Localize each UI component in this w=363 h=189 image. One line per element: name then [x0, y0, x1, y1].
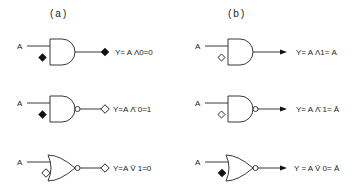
equation: Y= A Λ0=0: [115, 48, 153, 57]
input-label: A: [17, 42, 23, 51]
equation: Y= A Λ1= A: [296, 48, 338, 57]
inversion-bubble-icon: [75, 107, 80, 112]
open-diamond-icon: [218, 111, 225, 118]
arrow-icon: [280, 166, 287, 171]
gate-a2-nand: A Y=A Λ̄ 0=1: [17, 96, 152, 122]
nand-gate-icon: [50, 96, 75, 122]
gate-b3-nor: A Y = A V̄ 0= Ā: [195, 155, 340, 181]
input-label: A: [195, 99, 201, 108]
open-diamond-icon: [101, 105, 109, 113]
gate-b1-and: A Y= A Λ1= A: [195, 39, 338, 65]
equation: Y= A Λ̄ 1= Ā: [296, 105, 340, 114]
equation: Y=A Λ̄ 0=1: [113, 105, 152, 114]
open-diamond-icon: [218, 54, 225, 61]
nor-gate-icon: [226, 155, 253, 181]
arrow-icon: [280, 107, 287, 112]
equation: Y = A V̄ 0= Ā: [294, 164, 340, 173]
filled-diamond-icon: [38, 110, 46, 118]
and-gate-icon: [50, 39, 75, 65]
filled-diamond-icon: [38, 53, 46, 61]
input-label: A: [17, 158, 23, 167]
nor-gate-icon: [48, 155, 75, 181]
input-label: A: [17, 99, 23, 108]
open-diamond-icon: [42, 169, 50, 177]
gate-a3-nor: A Y=A V̄ 1=0: [17, 155, 152, 181]
logic-gate-diagram: (a) (b) A Y= A Λ0=0 A Y=A Λ̄ 0=1 A Y=A V…: [0, 0, 363, 189]
input-label: A: [195, 158, 201, 167]
filled-diamond-icon: [101, 48, 109, 56]
column-b-header: (b): [228, 8, 246, 19]
gate-b2-nand: A Y= A Λ̄ 1= Ā: [195, 96, 340, 122]
arrow-icon: [280, 50, 287, 55]
column-a-header: (a): [50, 8, 68, 19]
input-label: A: [195, 42, 201, 51]
inversion-bubble-icon: [253, 107, 258, 112]
filled-diamond-icon: [218, 169, 226, 177]
equation: Y=A V̄ 1=0: [113, 164, 152, 173]
gate-a1-and: A Y= A Λ0=0: [17, 39, 153, 65]
inversion-bubble-icon: [253, 166, 258, 171]
and-gate-icon: [228, 39, 253, 65]
inversion-bubble-icon: [75, 166, 80, 171]
nand-gate-icon: [228, 96, 253, 122]
open-diamond-icon: [101, 164, 109, 172]
